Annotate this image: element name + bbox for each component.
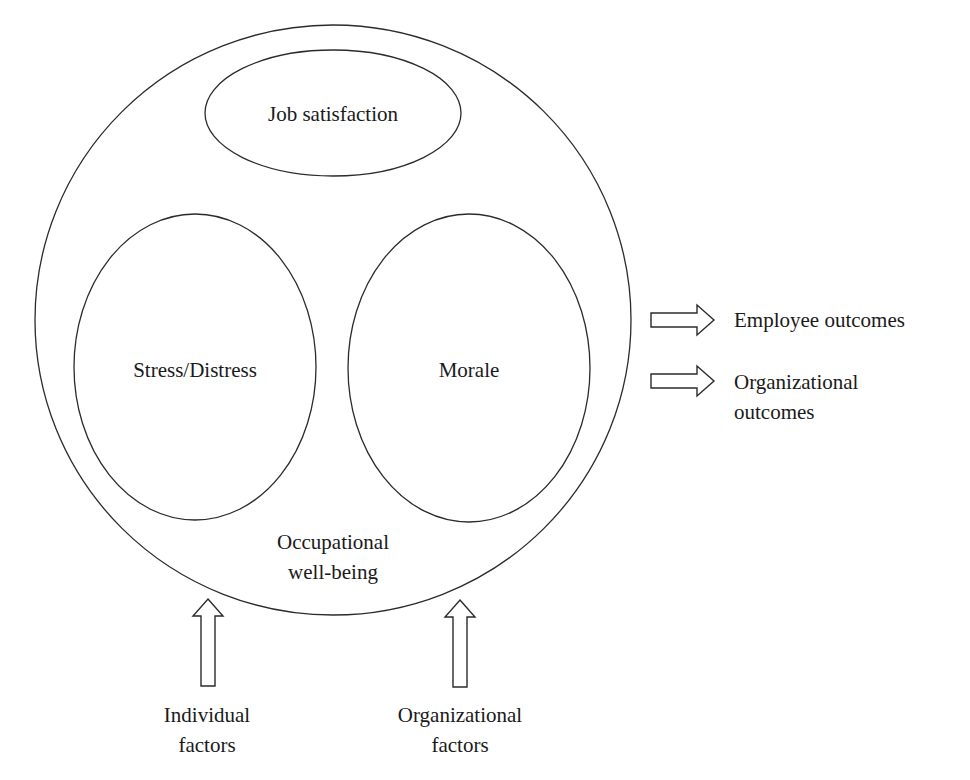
organizational-outcomes-line2: outcomes — [734, 397, 858, 427]
occupational-wellbeing-line1: Occupational — [277, 527, 389, 557]
organizational-outcomes-line1: Organizational — [734, 367, 858, 397]
organizational-factors-line2: factors — [398, 730, 522, 760]
arrow-right-icon-employee-outcomes — [651, 305, 714, 335]
employee-outcomes-text: Employee outcomes — [734, 305, 905, 335]
individual-factors-label: Individual factors — [164, 700, 250, 760]
individual-factors-line1: Individual — [164, 700, 250, 730]
organizational-factors-line1: Organizational — [398, 700, 522, 730]
organizational-outcomes-label: Organizational outcomes — [734, 367, 858, 427]
job-satisfaction-text: Job satisfaction — [268, 99, 398, 129]
job-satisfaction-label: Job satisfaction — [268, 99, 398, 129]
arrow-up-icon-individual-factors — [193, 599, 223, 686]
occupational-wellbeing-line2: well-being — [277, 557, 389, 587]
morale-label: Morale — [439, 355, 500, 385]
organizational-factors-label: Organizational factors — [398, 700, 522, 760]
arrow-up-icon-organizational-factors — [445, 600, 475, 687]
morale-text: Morale — [439, 355, 500, 385]
stress-distress-label: Stress/Distress — [133, 355, 257, 385]
arrow-right-icon-organizational-outcomes — [651, 366, 714, 396]
individual-factors-line2: factors — [164, 730, 250, 760]
stress-distress-text: Stress/Distress — [133, 355, 257, 385]
occupational-wellbeing-label: Occupational well-being — [277, 527, 389, 587]
employee-outcomes-label: Employee outcomes — [734, 305, 905, 335]
